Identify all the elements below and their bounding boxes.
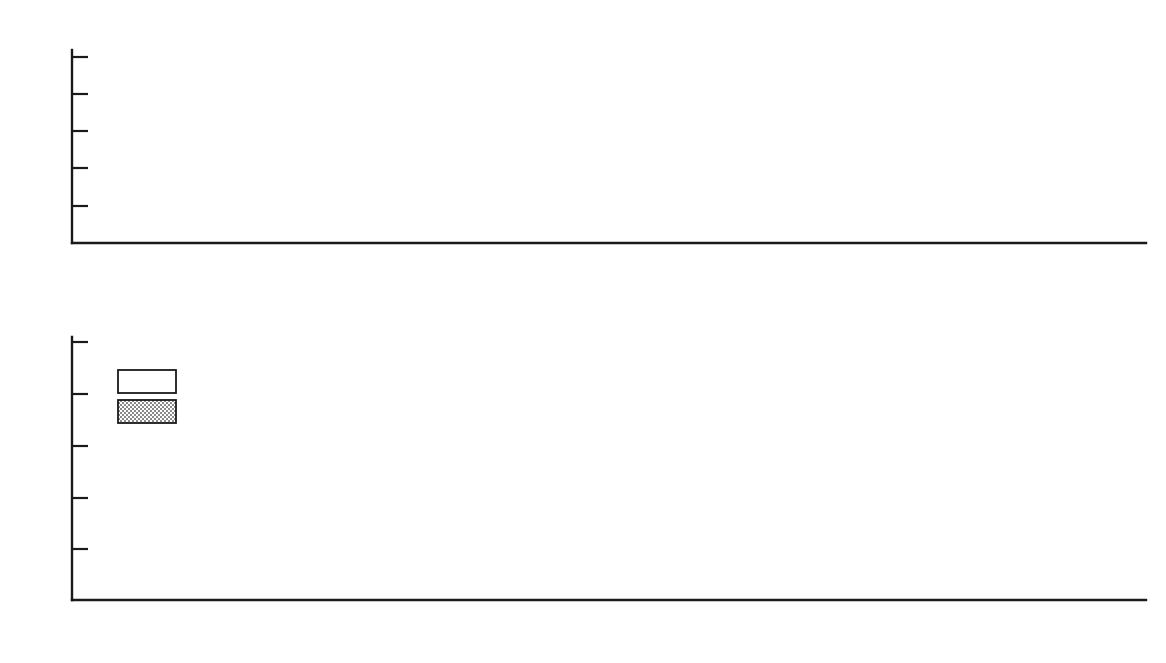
- bottom-panel: [0, 0, 1146, 600]
- chart-canvas: [0, 0, 1166, 663]
- top-panel: [0, 0, 1146, 243]
- top-y-ticks: [72, 57, 88, 206]
- legend-swatch-production: [118, 370, 176, 393]
- legend: [118, 370, 176, 423]
- figure-root: [0, 0, 1166, 663]
- bottom-y-ticks: [72, 342, 88, 549]
- legend-swatch-additions: [118, 400, 176, 423]
